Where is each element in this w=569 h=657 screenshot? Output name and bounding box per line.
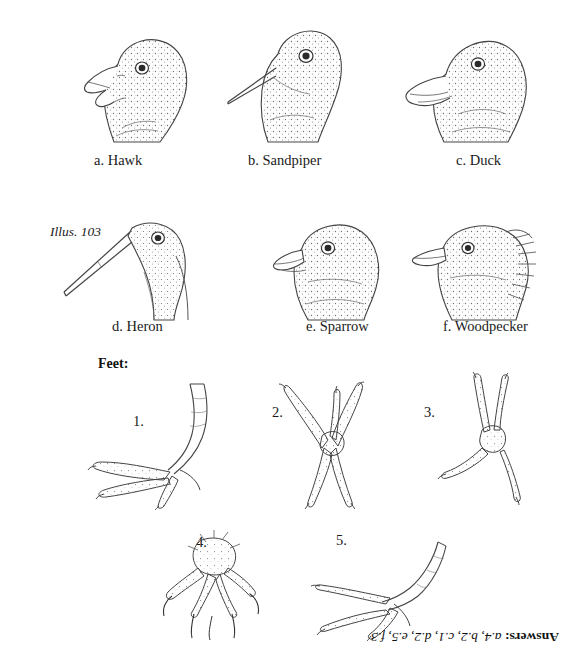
bird-foot-3-figure bbox=[430, 372, 560, 506]
caption-hawk: a. Hawk bbox=[94, 152, 142, 169]
caption-sparrow: e. Sparrow bbox=[306, 318, 369, 335]
caption-woodpecker: f. Woodpecker bbox=[443, 318, 528, 335]
answers-prefix: Answers: bbox=[505, 630, 559, 645]
answers-values: a.4, b.2, c.1, d.2, e.5, f.3 bbox=[371, 630, 505, 645]
bird-foot-4-figure bbox=[150, 536, 270, 644]
worksheet-page: a. Hawk b. Sandpiper bbox=[0, 0, 569, 657]
bird-head-woodpecker-figure bbox=[410, 212, 550, 320]
answers-line: Answers: a.4, b.2, c.1, d.2, e.5, f.3 bbox=[371, 629, 559, 645]
bird-foot-5-figure bbox=[306, 540, 456, 640]
bird-foot-1-figure bbox=[78, 378, 228, 508]
bird-foot-2-figure bbox=[262, 374, 392, 510]
bird-head-sandpiper-figure bbox=[218, 16, 358, 142]
bird-head-sparrow-figure bbox=[268, 212, 392, 320]
caption-heron: d. Heron bbox=[112, 318, 163, 335]
caption-duck: c. Duck bbox=[456, 152, 501, 169]
caption-sandpiper: b. Sandpiper bbox=[248, 152, 321, 169]
bird-head-duck-figure bbox=[400, 22, 550, 142]
bird-head-hawk-figure bbox=[70, 22, 200, 142]
feet-heading: Feet: bbox=[98, 356, 128, 372]
bird-head-heron-figure bbox=[58, 206, 228, 320]
